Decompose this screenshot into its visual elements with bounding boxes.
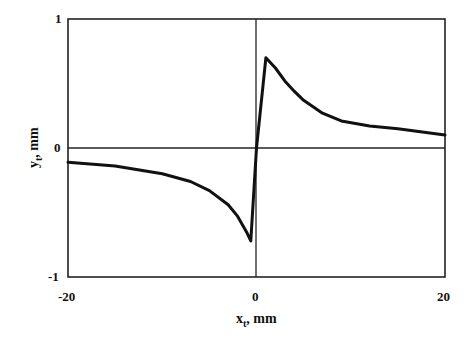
xtick-min: -20	[58, 289, 75, 305]
ytick-max: 1	[55, 11, 62, 27]
x-axis-label-main: x	[236, 311, 243, 326]
ytick-min: -1	[48, 269, 59, 285]
xtick-max: 20	[437, 289, 450, 305]
ytick-mid: 0	[54, 140, 61, 156]
y-axis-label-main: y	[26, 161, 41, 168]
y-axis-label-unit: , mm	[26, 127, 41, 157]
x-axis-label: xt, mm	[236, 311, 277, 329]
x-axis-label-unit: , mm	[246, 311, 276, 326]
y-axis-label-sub: t	[33, 158, 44, 161]
y-axis-label: yt, mm	[26, 127, 44, 168]
xtick-mid: 0	[252, 289, 259, 305]
